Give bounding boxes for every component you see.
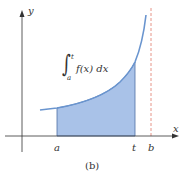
integral-expression: ∫ t a f(x) dx: [62, 52, 122, 84]
figure-caption: (b): [85, 161, 99, 171]
integral-lower-limit: a: [67, 74, 71, 82]
integral-sign: ∫: [62, 52, 71, 76]
y-axis-label: y: [28, 6, 34, 16]
x-axis-arrow-icon: [172, 134, 179, 139]
improper-integral-diagram: [0, 0, 184, 176]
y-axis-arrow-icon: [20, 10, 25, 17]
tick-label-t: t: [132, 143, 136, 153]
tick-label-a: a: [54, 143, 60, 153]
x-axis-label: x: [173, 124, 179, 134]
integral-upper-limit: t: [71, 53, 74, 61]
integrand: f(x) dx: [76, 63, 108, 74]
tick-label-b: b: [148, 143, 154, 153]
